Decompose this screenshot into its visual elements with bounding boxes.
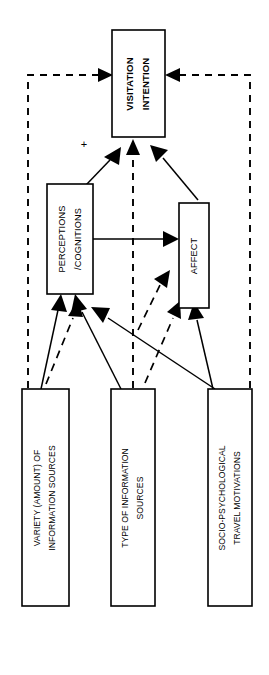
- node-label-affect: AFFECT: [189, 238, 199, 275]
- node-label-visitation-intention-line1: VISITATION: [124, 57, 135, 110]
- edge-motivations-to-perceptions: [91, 307, 215, 389]
- node-socio-psychological-travel-motivations[interactable]: SOCIO-PSYCHOLOGICAL TRAVEL MOTIVATIONS: [208, 389, 252, 606]
- node-variety-of-information-sources[interactable]: VARIETY (AMOUNT) OF INFORMATION SOURCES: [22, 389, 69, 606]
- edge-motivations-to-affect: [188, 302, 213, 389]
- node-perceptions-cognitions[interactable]: PERCEPTIONS /COGNITIONS: [47, 184, 93, 294]
- dashed-edge-type-midpoint-to-affect: [138, 270, 170, 330]
- node-label-visitation-intention-line2: INTENTION: [140, 58, 151, 111]
- arrowhead-dashed-right: [165, 68, 180, 82]
- edge-affect-to-intention: [150, 145, 198, 200]
- node-box-type-of-information-sources[interactable]: [111, 389, 155, 606]
- edge-perceptions-to-affect: [93, 231, 179, 247]
- edge-perceptions-to-intention: [86, 147, 121, 185]
- arrowhead-motivations-perceptions: [91, 307, 110, 323]
- node-affect[interactable]: AFFECT: [179, 203, 209, 308]
- model-canvas: VISITATION INTENTION PERCEPTIONS /COGNIT…: [0, 0, 269, 675]
- node-box-socio-psychological-travel-motivations[interactable]: [208, 389, 252, 606]
- positive-sign-annotation: +: [81, 138, 87, 150]
- node-label-type-line1: TYPE OF INFORMATION: [120, 448, 130, 548]
- node-label-variety-line2: INFORMATION SOURCES: [47, 445, 57, 551]
- arrowhead-perceptions-affect: [163, 231, 179, 247]
- arrowhead-dashed-left: [98, 68, 113, 82]
- node-label-perceptions-line2: /COGNITIONS: [73, 208, 83, 270]
- arrowhead-perceptions-intention: [104, 147, 121, 165]
- conceptual-model-diagram: VISITATION INTENTION PERCEPTIONS /COGNIT…: [0, 0, 269, 675]
- arrowhead-affect-intention: [150, 145, 168, 162]
- arrowhead-dashed-type-mid-affect: [154, 270, 170, 288]
- node-visitation-intention[interactable]: VISITATION INTENTION: [112, 30, 165, 137]
- dashed-edge-type-to-affect: [145, 301, 181, 383]
- dashed-path-type-to-intention: [126, 139, 140, 388]
- arrowhead-dashed-center: [126, 139, 140, 155]
- node-label-variety-line1: VARIETY (AMOUNT) OF: [32, 450, 42, 547]
- node-label-motivations-line1: SOCIO-PSYCHOLOGICAL: [217, 445, 227, 550]
- node-label-perceptions-line1: PERCEPTIONS: [57, 206, 67, 273]
- arrowhead-variety-perceptions: [51, 294, 67, 312]
- node-label-type-line2: SOURCES: [135, 476, 145, 519]
- node-type-of-information-sources[interactable]: TYPE OF INFORMATION SOURCES: [111, 389, 155, 606]
- node-box-variety-of-information-sources[interactable]: [22, 389, 69, 606]
- node-box-perceptions-cognitions[interactable]: [47, 184, 93, 294]
- node-label-motivations-line2: TRAVEL MOTIVATIONS: [232, 451, 242, 545]
- node-box-visitation-intention[interactable]: [112, 30, 165, 137]
